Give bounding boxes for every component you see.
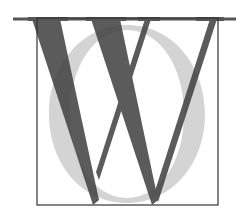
- letterform-diagram: [0, 0, 243, 216]
